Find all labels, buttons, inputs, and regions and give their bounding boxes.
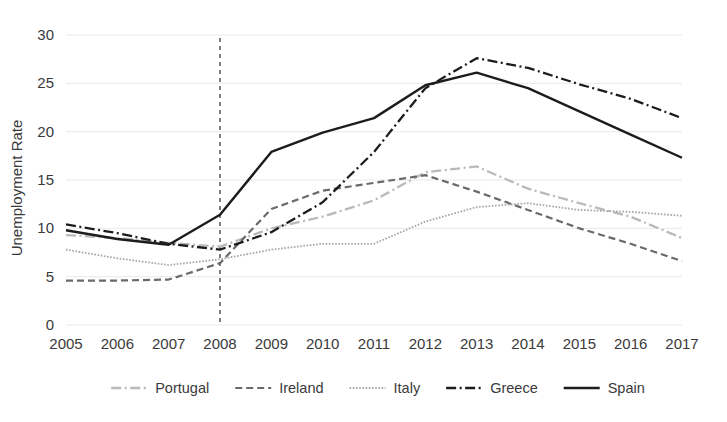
legend-item-ireland[interactable]: Ireland — [235, 380, 323, 396]
y-tick-label: 10 — [37, 219, 54, 236]
y-tick-label: 25 — [37, 74, 54, 91]
unemployment-rate-line-chart: 051015202530 200520062007200820092010201… — [0, 0, 727, 422]
chart-canvas: 051015202530 200520062007200820092010201… — [0, 0, 727, 422]
x-axis-tick-labels: 2005200620072008200920102011201220132014… — [49, 335, 698, 352]
legend-item-portugal[interactable]: Portugal — [111, 380, 209, 396]
x-tick-label: 2017 — [665, 335, 698, 352]
x-tick-label: 2013 — [460, 335, 493, 352]
legend-label-ireland: Ireland — [279, 380, 323, 396]
legend-item-italy[interactable]: Italy — [350, 380, 421, 396]
x-tick-label: 2008 — [203, 335, 236, 352]
y-tick-label: 5 — [46, 268, 54, 285]
series-group — [66, 58, 682, 280]
x-tick-label: 2006 — [101, 335, 134, 352]
y-axis-title: Unemployment Rate — [8, 120, 25, 257]
x-tick-label: 2009 — [255, 335, 288, 352]
x-tick-label: 2012 — [409, 335, 442, 352]
legend-label-italy: Italy — [394, 380, 421, 396]
x-tick-label: 2007 — [152, 335, 185, 352]
x-tick-label: 2011 — [358, 335, 390, 352]
y-tick-label: 30 — [37, 26, 54, 43]
gridline-group — [66, 35, 682, 325]
legend-item-greece[interactable]: Greece — [446, 380, 538, 396]
y-tick-label: 15 — [37, 171, 54, 188]
y-axis-tick-labels: 051015202530 — [37, 26, 54, 333]
x-tick-label: 2010 — [306, 335, 339, 352]
series-line-portugal — [66, 166, 682, 246]
chart-legend: PortugalIrelandItalyGreeceSpain — [111, 380, 645, 396]
y-tick-label: 0 — [46, 316, 54, 333]
legend-label-greece: Greece — [490, 380, 538, 396]
legend-label-portugal: Portugal — [155, 380, 209, 396]
series-line-italy — [66, 203, 682, 265]
series-line-spain — [66, 73, 682, 245]
x-tick-label: 2015 — [563, 335, 596, 352]
x-tick-label: 2005 — [49, 335, 82, 352]
x-tick-label: 2016 — [614, 335, 647, 352]
x-tick-label: 2014 — [511, 335, 544, 352]
y-tick-label: 20 — [37, 123, 54, 140]
legend-label-spain: Spain — [608, 380, 645, 396]
series-line-greece — [66, 58, 682, 249]
legend-item-spain[interactable]: Spain — [564, 380, 645, 396]
